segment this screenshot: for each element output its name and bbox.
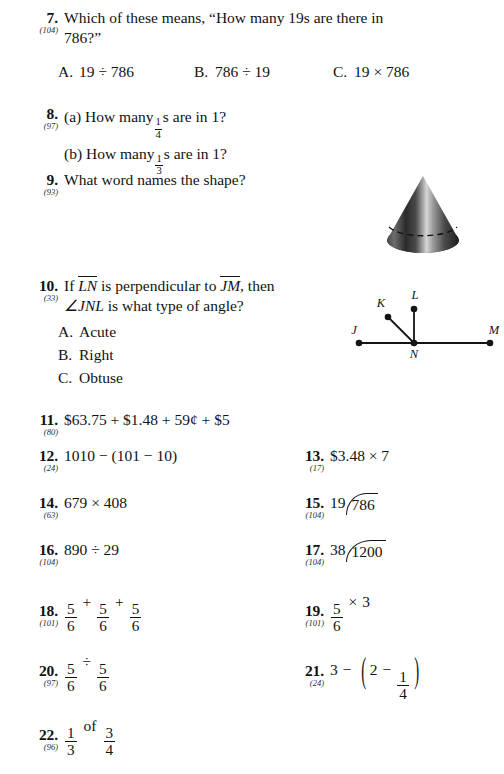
part-b-prefix: (b) How many bbox=[64, 145, 154, 162]
numerator: 3 bbox=[104, 725, 116, 740]
denominator: 4 bbox=[104, 741, 116, 757]
angle-jnl: ∠JNL bbox=[64, 297, 104, 314]
part-a-prefix: (a) How many bbox=[64, 108, 154, 125]
segment-ln: LN bbox=[78, 276, 97, 294]
problem-body: If LN is perpendicular to JM, then ∠JNL … bbox=[64, 276, 275, 316]
option-a-text: 19 ÷ 786 bbox=[79, 62, 134, 82]
problem-10: 10. (33) If LN is perpendicular to JM, t… bbox=[18, 276, 348, 316]
fraction-five-sixths-2: 56 bbox=[97, 601, 109, 633]
option-c[interactable]: C. Obtuse bbox=[58, 366, 123, 389]
problem-reference: (96) bbox=[44, 742, 58, 752]
problem-body: 3−(2−14) bbox=[330, 652, 423, 701]
fraction-five-sixths-1: 56 bbox=[65, 601, 77, 633]
option-c-text: Obtuse bbox=[79, 366, 123, 389]
label-j: J bbox=[351, 323, 358, 337]
problem-10-line-2: ∠JNL is what type of angle? bbox=[64, 296, 275, 316]
line-1-suffix: , then bbox=[240, 277, 274, 294]
fraction-three-fourths: 34 bbox=[104, 725, 116, 757]
denominator: 6 bbox=[97, 677, 109, 693]
problem-body: 56+56+56 bbox=[64, 592, 142, 633]
denominator: 6 bbox=[130, 617, 142, 633]
problem-body: $3.48 × 7 bbox=[330, 446, 389, 466]
option-a[interactable]: A. Acute bbox=[58, 320, 123, 343]
problem-reference: (63) bbox=[44, 510, 58, 520]
long-division-15: 19786 bbox=[330, 493, 378, 515]
divisor: 19 bbox=[330, 493, 346, 513]
problem-number-column: 11. (80) bbox=[18, 410, 64, 429]
problem-number: 14. bbox=[39, 494, 58, 511]
operator-times: × bbox=[344, 593, 363, 610]
problem-10-options: A. Acute B. Right C. Obtuse bbox=[58, 320, 358, 389]
denominator: 6 bbox=[97, 617, 109, 633]
problem-body: (a) How many14s are in 1? (b) How many13… bbox=[64, 104, 227, 177]
cone-figure bbox=[382, 172, 468, 262]
numerator: 1 bbox=[155, 154, 162, 165]
problem-number-column: 15. (104) bbox=[284, 493, 330, 512]
part-b-suffix: s are in 1? bbox=[164, 145, 227, 162]
option-b-text: Right bbox=[79, 343, 113, 366]
denominator: 4 bbox=[397, 685, 409, 701]
problem-body: 56×3 bbox=[330, 592, 370, 633]
problem-reference: (17) bbox=[310, 463, 324, 473]
problem-11: 11. (80) $63.75 + $1.48 + 59¢ + $5 bbox=[18, 410, 458, 430]
angle-svg: J K L M N bbox=[348, 282, 500, 364]
problem-number-column: 18. (101) bbox=[18, 592, 64, 620]
problem-9: 9. (93) What word names the shape? bbox=[18, 170, 348, 190]
option-a-label: A. bbox=[58, 62, 79, 82]
problem-8: 8. (97) (a) How many14s are in 1? (b) Ho… bbox=[18, 104, 418, 177]
label-m: M bbox=[488, 323, 500, 337]
numerator: 1 bbox=[397, 669, 409, 684]
option-b[interactable]: B. Right bbox=[58, 343, 123, 366]
numerator: 1 bbox=[65, 725, 77, 740]
problem-16: 16. (104) 890 ÷ 29 bbox=[18, 540, 268, 560]
problem-body: 381200 bbox=[330, 540, 386, 562]
problem-reference: (97) bbox=[44, 678, 58, 688]
option-c-label: C. bbox=[333, 62, 354, 82]
problem-reference: (104) bbox=[306, 510, 324, 520]
label-l: L bbox=[411, 288, 419, 302]
problem-number: 7. bbox=[47, 9, 58, 26]
option-b-text: 786 ÷ 19 bbox=[215, 62, 270, 82]
option-list: A. Acute B. Right C. Obtuse bbox=[58, 320, 123, 389]
problem-number: 20. bbox=[39, 662, 58, 679]
problem-body: What word names the shape? bbox=[64, 170, 246, 190]
cone-svg bbox=[382, 172, 468, 262]
numerator: 5 bbox=[130, 601, 142, 616]
numerator: 5 bbox=[65, 661, 77, 676]
line-2-suffix: is what type of angle? bbox=[108, 297, 244, 314]
label-n: N bbox=[409, 347, 419, 361]
problem-14: 14. (63) 679 × 408 bbox=[18, 493, 268, 513]
denominator: 6 bbox=[65, 677, 77, 693]
problem-body: 890 ÷ 29 bbox=[64, 540, 119, 560]
numerator: 5 bbox=[331, 601, 343, 616]
line-1-prefix: If bbox=[64, 277, 74, 294]
problem-reference: (97) bbox=[44, 121, 58, 131]
line-1-middle: is perpendicular to bbox=[101, 277, 216, 294]
numerator: 5 bbox=[65, 601, 77, 616]
segment-nk bbox=[388, 317, 414, 343]
fraction-one-third: 13 bbox=[65, 725, 77, 757]
option-a[interactable]: A. 19 ÷ 786 bbox=[58, 62, 194, 82]
operator-minus-1: − bbox=[338, 661, 357, 678]
problem-number: 13. bbox=[305, 447, 324, 464]
label-k: K bbox=[376, 296, 386, 310]
word-of: of bbox=[78, 717, 103, 734]
fraction-one-fourth: 14 bbox=[155, 117, 162, 140]
fraction-five-sixths-3: 56 bbox=[130, 601, 142, 633]
problem-reference: (104) bbox=[40, 557, 58, 567]
problem-8-part-a: (a) How many14s are in 1? bbox=[64, 104, 227, 141]
option-b[interactable]: B. 786 ÷ 19 bbox=[194, 62, 333, 82]
problem-number: 21. bbox=[305, 662, 324, 679]
problem-15: 15. (104) 19786 bbox=[284, 493, 504, 515]
fraction-five-sixths-1: 56 bbox=[65, 661, 77, 693]
problem-21: 21. (24) 3−(2−14) bbox=[284, 652, 504, 701]
numerator: 5 bbox=[97, 661, 109, 676]
problem-body: 679 × 408 bbox=[64, 493, 127, 513]
problem-reference: (24) bbox=[310, 678, 324, 688]
option-c[interactable]: C. 19 × 786 bbox=[333, 62, 409, 82]
segment-jm: JM bbox=[220, 276, 240, 294]
problem-number-column: 16. (104) bbox=[18, 540, 64, 559]
factor: 3 bbox=[362, 593, 370, 610]
problem-reference: (80) bbox=[44, 427, 58, 437]
part-a-suffix: s are in 1? bbox=[163, 108, 226, 125]
